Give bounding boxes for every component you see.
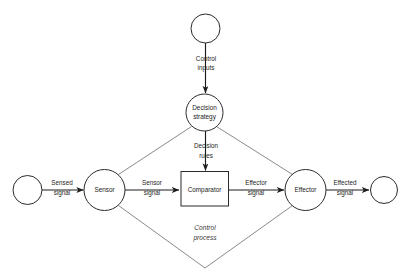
effected-signal-label-line1: Effected	[334, 179, 357, 186]
effector-label: Effector	[295, 186, 318, 193]
node-decision-strategy[interactable]: Decision strategy	[186, 94, 223, 131]
decision-rules-label-line1: Decision	[194, 142, 219, 149]
node-comparator[interactable]: Comparator	[181, 172, 229, 207]
control-inputs-label-line2: inputs	[198, 64, 215, 72]
sensed-signal-label-line2: signal	[54, 189, 70, 197]
edge-sensor-bottom-link	[119, 206, 206, 269]
edge-effector-bottom-link	[205, 206, 293, 269]
node-source[interactable]	[13, 176, 42, 205]
effected-signal-label-line2: signal	[337, 189, 353, 197]
node-sensor[interactable]: Sensor	[84, 170, 125, 211]
control-process-label-line1: Control	[194, 224, 216, 231]
control-process-diagram: Decision strategy Sensor Comparator Effe…	[0, 0, 414, 279]
source-circle[interactable]	[13, 176, 42, 205]
sensor-label: Sensor	[94, 186, 115, 193]
edge-strategy-effector-link	[217, 127, 293, 175]
node-control-input-source[interactable]	[191, 14, 220, 43]
decision-strategy-label-line1: Decision	[192, 104, 217, 111]
node-sink[interactable]	[371, 177, 398, 204]
effector-signal-label-line2: signal	[248, 189, 264, 197]
edge-strategy-sensor-link	[119, 127, 192, 175]
decision-rules-label-line2: rules	[199, 152, 213, 159]
comparator-label: Comparator	[188, 186, 223, 194]
control-process-label: Control process	[192, 224, 217, 242]
effector-signal-label-line1: Effector	[245, 179, 267, 186]
sensor-signal-label-line1: Sensor	[142, 179, 162, 186]
sink-circle[interactable]	[371, 177, 398, 204]
diagram-canvas: Decision strategy Sensor Comparator Effe…	[0, 0, 414, 279]
sensed-signal-label-line1: Sensed	[51, 179, 73, 186]
control-input-source-circle[interactable]	[191, 14, 220, 43]
control-inputs-label-line1: Control	[196, 55, 216, 62]
decision-strategy-label-line2: strategy	[193, 113, 217, 121]
sensor-signal-label-line2: signal	[144, 189, 160, 197]
control-process-label-line2: process	[192, 234, 217, 242]
node-effector[interactable]: Effector	[285, 170, 326, 211]
